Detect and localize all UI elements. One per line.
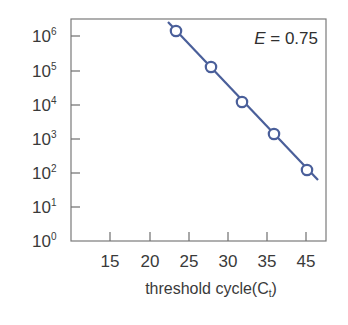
efficiency-annotation: E = 0.75 [254, 29, 318, 48]
y-tick-label-1e3: 103 [32, 129, 57, 149]
x-tick-label-15: 15 [101, 252, 120, 271]
y-axis-ticks [71, 36, 80, 207]
data-point [171, 26, 181, 36]
x-axis-labels: 15 20 25 30 35 45 [101, 252, 316, 271]
y-tick-label-1e5: 105 [32, 61, 57, 81]
x-tick-label-45: 45 [297, 252, 316, 271]
y-tick-label-1e2: 102 [32, 163, 57, 183]
y-axis-labels: 106 105 104 103 102 101 100 [32, 26, 57, 251]
data-point [237, 97, 247, 107]
y-tick-label-1e6: 106 [32, 26, 57, 46]
data-point [302, 165, 312, 175]
x-tick-label-35: 35 [258, 252, 277, 271]
y-tick-label-1e0: 100 [32, 231, 57, 251]
x-axis-title: threshold cycle(Ct) [145, 280, 277, 299]
y-tick-label-1e1: 101 [32, 197, 57, 217]
x-tick-label-20: 20 [141, 252, 160, 271]
data-point [206, 62, 216, 72]
x-tick-label-30: 30 [219, 252, 238, 271]
x-axis-ticks [110, 232, 306, 241]
plot-frame [71, 19, 326, 241]
data-point [269, 129, 279, 139]
chart-canvas: 106 105 104 103 102 101 100 15 20 25 30 … [0, 0, 348, 325]
y-tick-label-1e4: 104 [32, 95, 57, 115]
x-tick-label-25: 25 [180, 252, 199, 271]
